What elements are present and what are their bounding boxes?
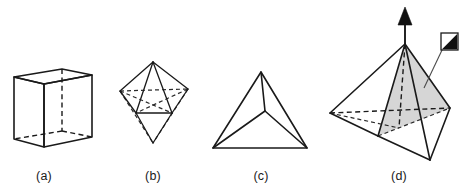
tetrahedron-c-center-to-bottom-right (265, 111, 307, 148)
cube-left-face (14, 77, 44, 147)
octahedron-hidden-back-edge (120, 89, 188, 91)
octahedron-hidden-edges (120, 89, 188, 143)
figure-canvas: (a) (b) (c) (d) (0, 0, 466, 196)
mirror-plane-symbol-icon (441, 33, 458, 50)
cube-hidden-bottom-left-edge (14, 131, 62, 139)
caption-d: (d) (391, 169, 407, 183)
panel-b-octahedron (120, 62, 188, 143)
tetrahedron-d-left-to-front-edge (330, 113, 378, 136)
octahedron-front-right-to-bottom (153, 113, 172, 143)
tetrahedron-d-bottom-to-right-edge (430, 108, 450, 160)
tetrahedron-d-front-to-bottom-edge (378, 136, 430, 160)
rotation-axis-arrow (398, 7, 412, 44)
octahedron-front-left-to-bottom (136, 113, 153, 143)
tetrahedron-c-center-to-bottom-left (213, 111, 265, 148)
cube-hidden-bottom-right-edge (62, 131, 92, 137)
panel-a-cube (14, 69, 92, 147)
caption-c: (c) (253, 169, 268, 183)
mirror-plane-leader-line (424, 48, 443, 88)
panel-d-tetrahedron-symmetry (330, 7, 458, 160)
rotation-axis-arrowhead-icon (398, 7, 412, 25)
cube-right-face (44, 75, 92, 147)
polyhedra-figure: (a) (b) (c) (d) (0, 0, 466, 196)
caption-b: (b) (145, 169, 161, 183)
caption-a: (a) (36, 169, 52, 183)
panel-c-tetrahedron (213, 72, 307, 148)
